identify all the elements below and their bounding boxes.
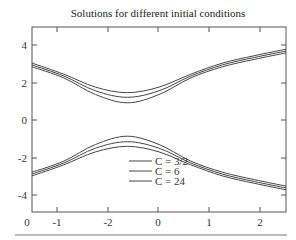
chart: Solutions for different initial conditio… — [0, 0, 296, 240]
y-tick: -4 — [18, 189, 286, 201]
x-origin-label: 0 — [24, 216, 30, 228]
y-tick-label: -4 — [18, 189, 28, 201]
legend: C = 3/2 C = 6 C = 24 — [129, 155, 188, 187]
legend-label: C = 24 — [155, 175, 186, 187]
y-tick-label: 4 — [22, 39, 28, 51]
y-tick: -2 — [18, 152, 286, 164]
y-tick: 0 — [22, 114, 287, 126]
x-tick: -2 — [103, 27, 112, 228]
legend-item: C = 24 — [129, 175, 186, 187]
x-tick-label: 0 — [155, 216, 161, 228]
y-tick: 4 — [22, 39, 287, 51]
x-axis: 0 -1 -2 0 1 2 — [24, 27, 263, 228]
x-tick-label: -2 — [103, 216, 112, 228]
y-axis: 4 2 0 -2 -4 — [18, 39, 286, 201]
x-tick: -1 — [52, 27, 61, 228]
y-tick: 2 — [22, 77, 287, 89]
x-tick: 1 — [206, 27, 212, 228]
series-curve — [32, 49, 286, 92]
chart-title: Solutions for different initial conditio… — [71, 7, 246, 19]
series-curve — [32, 53, 286, 103]
y-tick-label: 0 — [22, 114, 28, 126]
series-curve — [32, 51, 286, 97]
x-tick-label: 1 — [206, 216, 212, 228]
x-tick: 0 — [155, 27, 161, 228]
x-tick-label: -1 — [52, 216, 61, 228]
y-tick-label: -2 — [18, 152, 27, 164]
x-tick-label: 2 — [257, 216, 263, 228]
y-tick-label: 2 — [22, 77, 28, 89]
